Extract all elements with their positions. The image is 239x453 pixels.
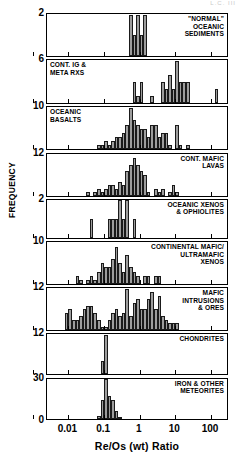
histogram-panel-continental-mafic-ultramafic-xenos: 10CONTINENTAL MAFIC/ ULTRAMAFIC XENOS	[46, 241, 228, 285]
histogram-panel-mafic-intrusions-ores: 12MAFIC INTRUSIONS & ORES	[46, 287, 228, 331]
x-tick-major	[211, 52, 212, 56]
bar	[147, 276, 151, 284]
bar	[104, 335, 108, 374]
x-tick-major	[175, 234, 176, 238]
x-tick-label: 0.1	[96, 423, 110, 434]
histogram-panel-continental-mafic-lavas: 12CONT. MAFIC LAVAS	[46, 153, 228, 197]
x-tick-major	[175, 145, 176, 149]
x-tick-major	[68, 192, 69, 196]
bars-normal-oceanic-sediments	[47, 14, 227, 56]
x-tick-major	[104, 234, 105, 238]
x-tick-major	[104, 192, 105, 196]
x-tick-major	[211, 145, 212, 149]
bars-continental-igneous-meta-rocks	[47, 60, 227, 103]
x-tick-major	[140, 52, 141, 56]
x-tick-major	[211, 415, 212, 419]
bar	[143, 15, 147, 56]
bar	[147, 192, 151, 195]
bar	[86, 192, 90, 195]
x-tick-major	[140, 370, 141, 374]
x-tick-major	[211, 192, 212, 196]
y-axis-label: FREQUENCY	[7, 150, 17, 230]
bars-chondrites	[47, 334, 227, 374]
x-tick-major	[175, 280, 176, 284]
x-tick-major	[175, 192, 176, 196]
x-tick-major	[211, 234, 212, 238]
x-tick-major	[104, 415, 105, 419]
x-axis-title: Re/Os (wt) Ratio	[46, 440, 228, 452]
bar	[150, 96, 154, 103]
histogram-panel-stack: 2"NORMAL" OCEANIC SEDIMENTS6CONT. IG & M…	[46, 13, 228, 422]
y-axis-max-tick-mafic-intrusions-ores: 12	[33, 282, 44, 292]
bar	[90, 219, 94, 238]
histogram-panel-oceanic-basalts: 10OCEANIC BASALTS	[46, 106, 228, 150]
histogram-panel-oceanic-xenos-ophiolites: 2OCEANIC XENOS & OPHIOLITES	[46, 199, 228, 239]
x-tick-major	[140, 280, 141, 284]
bar	[118, 417, 122, 419]
x-tick-major	[104, 145, 105, 149]
x-tick-label: 10	[169, 423, 180, 434]
x-tick-major	[140, 192, 141, 196]
bar	[161, 189, 165, 196]
x-tick-major	[140, 326, 141, 330]
bar	[79, 280, 83, 284]
y-axis-max-tick-continental-mafic-lavas: 12	[33, 148, 44, 158]
x-tick-label: 1	[136, 423, 142, 434]
figure-root: L.C. III FREQUENCY 2"NORMAL" OCEANIC SED…	[0, 0, 239, 453]
x-tick-major	[175, 415, 176, 419]
corner-note: L.C. III	[210, 0, 236, 8]
histogram-panel-chondrites: 12CHONDRITES	[46, 333, 228, 375]
y-axis-max-tick-chondrites: 12	[33, 328, 44, 338]
x-tick-major	[211, 280, 212, 284]
y-axis-max-tick-continental-igneous-meta-rocks: 6	[38, 54, 44, 64]
x-tick-major	[211, 99, 212, 103]
x-tick-major	[104, 99, 105, 103]
bar	[133, 219, 137, 238]
x-tick-major	[104, 52, 105, 56]
x-tick-major	[140, 99, 141, 103]
x-tick-label: 0.01	[58, 423, 77, 434]
y-axis-min-tick-iron-other-meteorites: 0	[38, 415, 44, 425]
x-tick-major	[68, 99, 69, 103]
x-tick-major	[68, 234, 69, 238]
bars-iron-other-meteorites	[47, 379, 227, 419]
bars-mafic-intrusions-ores	[47, 288, 227, 330]
x-tick-major	[175, 99, 176, 103]
x-tick-major	[211, 326, 212, 330]
bars-continental-mafic-ultramafic-xenos	[47, 242, 227, 284]
bar	[125, 200, 129, 237]
y-axis-max-tick-normal-oceanic-sediments: 2	[38, 8, 44, 18]
y-axis-max-tick-oceanic-xenos-ophiolites: 2	[38, 194, 44, 204]
x-tick-major	[175, 326, 176, 330]
x-tick-major	[33, 415, 34, 419]
x-tick-label: 100	[202, 423, 219, 434]
x-tick-major	[68, 326, 69, 330]
histogram-panel-iron-other-meteorites: 300IRON & OTHER METEORITES	[46, 378, 228, 420]
x-tick-major	[68, 415, 69, 419]
x-tick-major	[33, 192, 34, 196]
x-tick-major	[68, 280, 69, 284]
x-axis-tick-labels: 0.010.1110100	[46, 423, 228, 437]
bar	[186, 145, 190, 149]
x-tick-major	[68, 370, 69, 374]
bars-oceanic-basalts	[47, 107, 227, 149]
x-tick-major	[175, 52, 176, 56]
bar	[215, 89, 219, 103]
bar	[158, 276, 162, 284]
y-axis-max-tick-iron-other-meteorites: 30	[33, 373, 44, 383]
x-tick-major	[211, 370, 212, 374]
x-tick-major	[104, 280, 105, 284]
bars-continental-mafic-lavas	[47, 154, 227, 196]
x-tick-major	[140, 415, 141, 419]
y-axis-max-tick-oceanic-basalts: 10	[33, 101, 44, 111]
x-tick-major	[140, 234, 141, 238]
x-tick-major	[68, 52, 69, 56]
x-tick-major	[104, 326, 105, 330]
y-axis-max-tick-continental-mafic-ultramafic-xenos: 10	[33, 236, 44, 246]
bar	[179, 145, 183, 149]
x-tick-major	[140, 145, 141, 149]
bar	[186, 82, 190, 103]
bar	[168, 145, 172, 149]
x-tick-major	[68, 145, 69, 149]
bars-oceanic-xenos-ophiolites	[47, 200, 227, 238]
